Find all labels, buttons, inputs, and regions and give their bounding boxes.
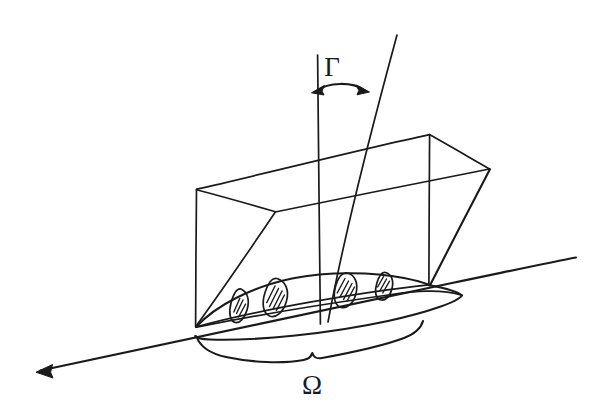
box-edge-back-right-vertical [429, 135, 430, 286]
figure-root: Γ [0, 0, 592, 416]
box-edge-front-left-vertical [196, 190, 197, 327]
omega-label: Ω [302, 370, 322, 400]
gamma-label: Γ [324, 52, 340, 82]
figure-canvas: Γ [0, 0, 592, 416]
